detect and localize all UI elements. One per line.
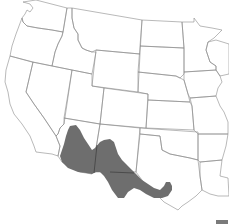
state-south-dakota <box>138 46 184 78</box>
state-missouri <box>190 96 228 134</box>
state-north-dakota <box>140 20 184 48</box>
state-oregon <box>10 18 63 66</box>
state-iowa <box>184 70 222 98</box>
state-idaho <box>52 8 96 74</box>
state-kansas <box>146 100 194 130</box>
state-texas <box>136 134 202 210</box>
state-nevada <box>26 62 72 136</box>
state-minnesota <box>182 18 222 72</box>
state-montana <box>72 8 142 54</box>
state-california <box>5 56 60 156</box>
legend-swatch <box>216 220 228 224</box>
state-louisiana <box>200 160 229 196</box>
state-wyoming <box>92 50 140 92</box>
state-oklahoma <box>140 128 198 160</box>
state-washington <box>22 0 67 32</box>
state-colorado <box>100 88 148 128</box>
state-arkansas <box>198 134 228 162</box>
species-range <box>60 125 172 198</box>
range-map <box>0 0 229 224</box>
state-nebraska <box>138 72 190 102</box>
state-utah <box>64 70 104 124</box>
